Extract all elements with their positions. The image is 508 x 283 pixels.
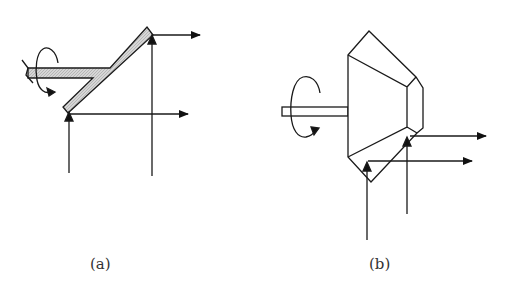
panel-b-diagram: [282, 31, 486, 240]
polygon-mirror-outline: [348, 31, 423, 182]
y-mirror-body: [28, 27, 153, 113]
panel-a-label: (a): [90, 255, 111, 273]
panel-b-label: (b): [369, 255, 390, 273]
figure-canvas: [0, 0, 508, 283]
panel-a-diagram: [22, 27, 200, 176]
rotation-arrowhead-icon: [47, 88, 55, 96]
shaft: [282, 107, 348, 116]
